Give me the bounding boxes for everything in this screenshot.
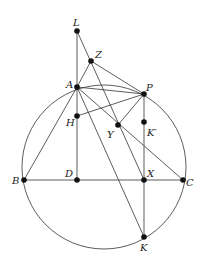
point-C <box>180 177 186 183</box>
circumcircle <box>22 85 186 249</box>
label-X: X <box>146 168 155 179</box>
segments <box>24 31 183 237</box>
label-Kp: K′ <box>146 127 157 138</box>
geometry-diagram: LZAPHYK′BDXCK <box>0 0 208 263</box>
segment-Z-A <box>77 61 91 87</box>
label-H: H <box>65 117 75 128</box>
point-B <box>21 177 27 183</box>
point-Y <box>115 122 121 128</box>
circle <box>22 85 186 249</box>
segment-A-C <box>77 87 183 180</box>
label-L: L <box>72 17 80 28</box>
segment-B-A <box>24 87 77 180</box>
point-K <box>141 234 147 240</box>
label-K: K <box>139 242 148 253</box>
point-Kp <box>141 119 147 125</box>
point-H <box>74 113 80 119</box>
segment-A-K <box>77 87 144 237</box>
label-P: P <box>145 82 153 93</box>
point-D <box>74 177 80 183</box>
point-labels: LZAPHYK′BDXCK <box>11 17 194 253</box>
label-C: C <box>186 177 194 188</box>
point-X <box>141 177 147 183</box>
label-D: D <box>64 168 73 179</box>
label-Y: Y <box>107 129 115 140</box>
points <box>21 28 186 240</box>
label-A: A <box>65 79 73 90</box>
label-B: B <box>11 175 19 186</box>
point-Z <box>88 58 94 64</box>
point-A <box>74 84 80 90</box>
point-L <box>74 28 80 34</box>
label-Z: Z <box>94 49 103 60</box>
segment-H-P <box>77 94 144 116</box>
